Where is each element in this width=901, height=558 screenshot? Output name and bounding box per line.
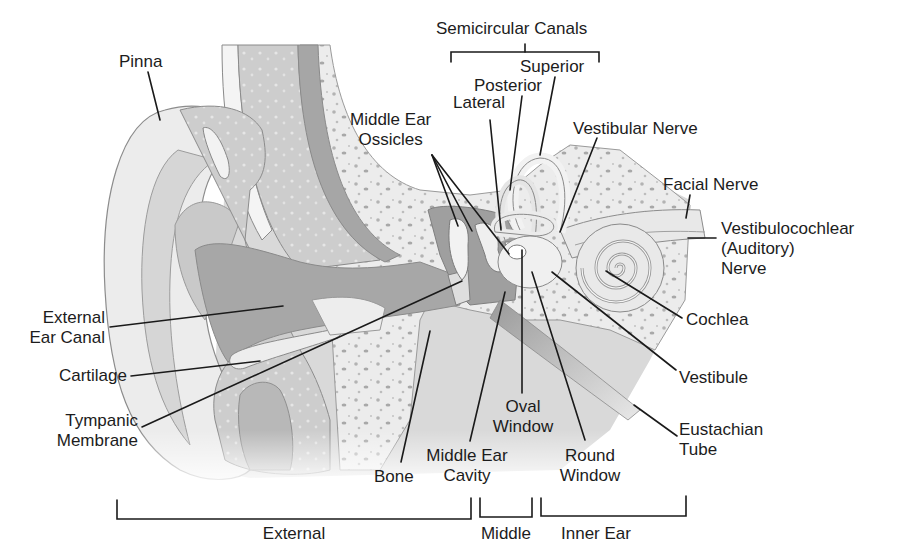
label-superior: Superior — [520, 57, 584, 77]
label-middle-ear-ossicles-line2: Ossicles — [350, 130, 431, 150]
label-round-window-line2: Window — [550, 466, 630, 486]
label-middle-ear-cavity: Middle Ear Cavity — [416, 446, 518, 486]
label-semicircular-canals: Semicircular Canals — [436, 19, 587, 39]
label-oval-window-line2: Window — [487, 417, 559, 437]
external-bracket — [117, 498, 471, 519]
label-vestibulocochlear-line1: Vestibulocochlear — [721, 219, 854, 239]
label-vestibulocochlear-line3: Nerve — [721, 259, 854, 279]
region-label-external: External — [117, 524, 471, 544]
label-middle-ear-cavity-line1: Middle Ear — [416, 446, 518, 466]
label-vestibular-nerve: Vestibular Nerve — [573, 119, 698, 139]
label-facial-nerve: Facial Nerve — [663, 175, 758, 195]
label-vestibule: Vestibule — [679, 368, 748, 388]
label-middle-ear-ossicles: Middle Ear Ossicles — [350, 110, 431, 150]
middle-bracket — [480, 498, 532, 517]
label-lateral: Lateral — [453, 93, 505, 113]
label-vestibulocochlear-nerve: Vestibulocochlear (Auditory) Nerve — [721, 219, 854, 279]
label-middle-ear-cavity-line2: Cavity — [416, 466, 518, 486]
region-label-inner-ear: Inner Ear — [541, 524, 651, 544]
label-cochlea: Cochlea — [686, 310, 748, 330]
inner-ear-bracket — [541, 496, 686, 516]
label-oval-window-line1: Oval — [487, 397, 559, 417]
label-external-ear-canal-line1: External — [15, 308, 105, 328]
label-tympanic-membrane: Tympanic Membrane — [20, 411, 138, 451]
region-label-middle: Middle — [468, 524, 544, 544]
label-tympanic-line2: Membrane — [20, 431, 138, 451]
label-tympanic-line1: Tympanic — [20, 411, 138, 431]
label-vestibulocochlear-line2: (Auditory) — [721, 239, 854, 259]
label-round-window: Round Window — [550, 446, 630, 486]
label-cartilage: Cartilage — [20, 366, 127, 386]
label-pinna: Pinna — [119, 52, 162, 72]
label-eustachian-line2: Tube — [679, 440, 763, 460]
label-external-ear-canal-line2: Ear Canal — [15, 328, 105, 348]
label-external-ear-canal: External Ear Canal — [15, 308, 105, 348]
label-round-window-line1: Round — [550, 446, 630, 466]
label-middle-ear-ossicles-line1: Middle Ear — [350, 110, 431, 130]
label-oval-window: Oval Window — [487, 397, 559, 437]
label-eustachian-tube: Eustachian Tube — [679, 420, 763, 460]
label-bone: Bone — [374, 467, 414, 487]
label-eustachian-line1: Eustachian — [679, 420, 763, 440]
